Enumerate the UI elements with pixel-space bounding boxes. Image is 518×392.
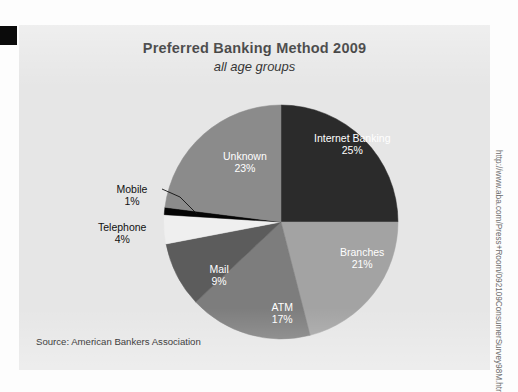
pie-slices — [164, 105, 398, 339]
pie-chart-svg — [19, 25, 490, 370]
page-edge-marker — [0, 26, 17, 45]
screenshot-canvas: Preferred Banking Method 2009 all age gr… — [0, 0, 518, 392]
source-caption: Source: American Bankers Association — [36, 336, 201, 347]
pie-slice — [281, 105, 398, 222]
pie-chart: Internet Banking25%Branches21%ATM17%Mail… — [19, 25, 490, 370]
pie-slice — [165, 105, 281, 222]
source-url-caption: http://www.aba.com/Press+Room/092109Cons… — [494, 150, 503, 390]
chart-panel: Preferred Banking Method 2009 all age gr… — [19, 25, 490, 370]
